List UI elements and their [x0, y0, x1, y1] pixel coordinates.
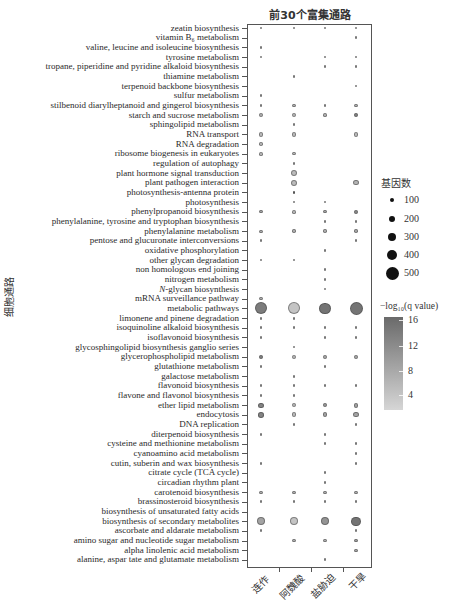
y-tick: [242, 444, 247, 445]
y-tick: [242, 57, 247, 58]
pathway-label: amino sugar and nucleotide sugar metabol…: [2, 535, 239, 545]
y-tick: [242, 47, 247, 48]
y-tick: [242, 386, 247, 387]
colorbar-tick: [399, 320, 403, 321]
y-tick: [242, 337, 247, 338]
y-tick: [242, 434, 247, 435]
y-tick: [242, 366, 247, 367]
data-point: [350, 302, 363, 315]
size-legend-label: 200: [404, 214, 419, 224]
y-tick: [242, 512, 247, 513]
y-tick: [242, 502, 247, 503]
y-tick: [242, 550, 247, 551]
pathway-label: N-glycan biosynthesis: [2, 284, 239, 294]
y-tick: [242, 173, 247, 174]
pathway-label: plant pathogen interaction: [2, 177, 239, 187]
size-legend-dot: [389, 216, 395, 222]
y-tick: [242, 482, 247, 483]
data-point: [354, 355, 358, 359]
y-tick: [242, 115, 247, 116]
y-tick: [242, 376, 247, 377]
y-tick: [242, 453, 247, 454]
pathway-label: cyanoamino acid metabolism: [2, 448, 239, 458]
data-point: [258, 403, 263, 408]
data-point: [259, 355, 263, 359]
y-tick: [242, 105, 247, 106]
pathway-label: glutathione metabolism: [2, 361, 239, 371]
pathway-label: glycosphingolipid biosynthesis ganglio s…: [2, 342, 239, 352]
data-point: [292, 132, 297, 137]
plot-area: [247, 24, 372, 568]
pathway-label: isoflavonoid biosynthesis: [2, 332, 239, 342]
pathway-label: tropane, piperidine and pyridine alkaloi…: [2, 61, 239, 71]
pathway-label: ether lipid metabolism: [2, 400, 239, 410]
y-tick: [242, 318, 247, 319]
pathway-label: oxidative phosphorylation: [2, 245, 239, 255]
data-point: [323, 229, 326, 232]
colorbar-tick: [399, 371, 403, 372]
data-point: [323, 491, 326, 494]
pathway-label: stilbenoid diarylheptanoid and gingerol …: [2, 100, 239, 110]
pathway-label: DNA replication: [2, 419, 239, 429]
pathway-label: ribosome biogenesis in eukaryotes: [2, 148, 239, 158]
data-point: [259, 491, 262, 494]
colorbar: [384, 317, 403, 410]
pathway-label: alpha linolenic acid metabolism: [2, 545, 239, 555]
y-tick: [242, 192, 247, 193]
pathway-label: diterpenoid biosynthesis: [2, 429, 239, 439]
pathway-label: endocytosis: [2, 409, 239, 419]
data-point: [323, 355, 327, 359]
y-tick: [242, 279, 247, 280]
data-point: [293, 75, 296, 78]
pathway-label: thiamine metabolism: [2, 71, 239, 81]
size-legend-label: 100: [404, 195, 419, 205]
pathway-label: citrate cycle (TCA cycle): [2, 467, 239, 477]
data-point: [291, 180, 297, 186]
y-tick: [242, 463, 247, 464]
pathway-label: ascorbate and aldarate metabolism: [2, 525, 239, 535]
size-legend-label: 500: [404, 268, 419, 278]
pathway-label: vitamin B₆ metabolism: [2, 32, 239, 42]
y-tick: [242, 38, 247, 39]
pathway-label: limonene and pinene degradation: [2, 313, 239, 323]
y-tick: [242, 424, 247, 425]
data-point: [354, 132, 359, 137]
chart-title: 前30个富集通路: [240, 6, 380, 22]
data-point: [291, 170, 297, 176]
colorbar-tick-label: 16: [408, 315, 418, 325]
y-tick: [242, 86, 247, 87]
data-point: [259, 142, 263, 146]
pathway-label: cutin, suberin and wax biosynthesis: [2, 458, 239, 468]
enrichment-dot-plot: 前30个富集通路 细胞通路 基因数 −log₁₀(q value) zeatin…: [0, 0, 456, 616]
pathway-label: valine, leucine and isoleucine biosynthe…: [2, 42, 239, 52]
y-tick: [242, 163, 247, 164]
y-tick: [242, 250, 247, 251]
pathway-label: phenylalanine metabolism: [2, 226, 239, 236]
y-tick: [242, 347, 247, 348]
data-point: [354, 539, 357, 542]
y-tick: [242, 415, 247, 416]
y-tick: [242, 202, 247, 203]
data-point: [259, 152, 263, 156]
x-tick: [279, 568, 280, 572]
data-point: [259, 113, 263, 117]
data-point: [354, 229, 358, 233]
data-point: [292, 491, 295, 494]
pathway-label: plant hormone signal transduction: [2, 168, 239, 178]
data-point: [323, 539, 326, 542]
pathway-label: nitrogen metabolism: [2, 274, 239, 284]
x-axis-label: 干旱: [345, 569, 370, 594]
data-point: [258, 412, 264, 418]
pathway-label: alanine, aspar tate and glutamate metabo…: [2, 554, 239, 564]
size-legend-label: 300: [404, 232, 419, 242]
y-tick: [242, 221, 247, 222]
data-point: [354, 210, 358, 214]
x-tick: [311, 568, 312, 572]
pathway-label: galactose metabolism: [2, 371, 239, 381]
pathway-label: phenylpropanoid biosynthesis: [2, 206, 239, 216]
data-point: [324, 433, 327, 436]
pathway-label: phenylalanine, tyrosine and tryptophan b…: [2, 216, 239, 226]
pathway-label: terpenoid backbone biosynthesis: [2, 81, 239, 91]
y-tick: [242, 299, 247, 300]
data-point: [292, 355, 296, 359]
